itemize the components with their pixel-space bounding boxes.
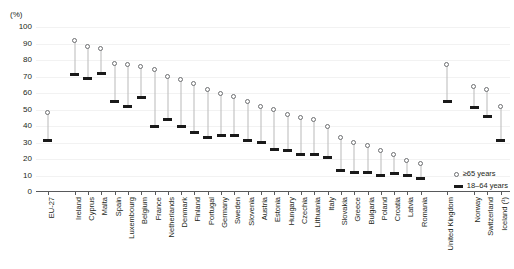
range-connector [500,106,501,141]
data-point-65-plus [365,143,370,148]
x-axis-tick [341,192,342,195]
y-axis-tick-label: 20 [23,155,32,163]
x-axis-category-label: Sweden [234,197,242,224]
data-point-65-plus [471,84,476,89]
data-point-65-plus [444,62,449,67]
x-axis-tick [288,192,289,195]
range-connector [487,90,488,116]
data-point-65-plus [391,152,396,157]
x-axis-tick [301,192,302,195]
x-axis-tick [447,192,448,195]
range-connector [221,93,222,136]
x-axis-category-label: Poland [381,197,389,220]
x-axis-category-label: Bulgaria [368,197,376,225]
y-axis-tick-label: 100 [19,23,32,31]
data-point-18-64 [243,139,252,142]
data-point-18-64 [390,172,399,175]
data-point-18-64 [163,118,172,121]
data-point-65-plus [338,135,343,140]
x-axis-tick [101,192,102,195]
range-connector [394,154,395,174]
x-axis-category-label: Greece [354,197,362,222]
data-point-18-64 [403,174,412,177]
x-axis-baseline [36,191,510,192]
range-connector [327,126,328,157]
x-axis-category-label: Italy [328,197,336,211]
x-axis-tick [354,192,355,195]
range-connector [74,40,75,75]
range-connector [87,47,88,78]
range-connector [287,114,288,150]
x-axis-tick [501,192,502,195]
range-connector [354,143,355,173]
y-gridline [36,176,510,177]
y-axis-tick-label: 70 [23,73,32,81]
y-gridline [36,44,510,45]
x-axis-category-label: EU-27 [48,197,56,218]
data-point-18-64 [97,72,106,75]
range-connector [380,151,381,176]
y-gridline [36,93,510,94]
data-point-65-plus [285,112,290,117]
x-axis-tick [234,192,235,195]
x-axis-category-label: Austria [261,197,269,220]
range-connector [141,67,142,98]
x-axis-tick [474,192,475,195]
x-axis-category-label: United Kingdom [447,197,455,250]
range-connector [127,65,128,106]
x-axis-category-label: Hungary [288,197,296,225]
range-connector [181,80,182,126]
range-connector [194,83,195,133]
data-point-65-plus [45,110,50,115]
x-axis-category-label: Norway [474,197,482,222]
x-axis-category-label: Belgium [141,197,149,224]
y-axis-tick-label: 60 [23,89,32,97]
x-axis-category-label: Luxembourg [128,197,136,239]
data-point-18-64 [257,141,266,144]
data-point-65-plus [205,87,210,92]
y-axis-tick-label: 40 [23,122,32,130]
y-axis-tick-label: 0 [28,188,32,196]
data-point-18-64 [203,136,212,139]
y-axis-tick-label: 90 [23,40,32,48]
x-axis-category-label: Croatia [394,197,402,221]
data-point-65-plus [404,158,409,163]
range-connector [207,90,208,138]
data-point-18-64 [283,149,292,152]
data-point-18-64 [323,156,332,159]
data-point-18-64 [336,169,345,172]
range-connector [474,86,475,107]
range-connector [167,77,168,120]
x-axis-category-label: Netherlands [168,197,176,237]
range-connector [261,106,262,142]
data-point-65-plus [98,46,103,51]
data-point-18-64 [483,115,492,118]
range-connector [101,48,102,73]
data-point-18-64 [177,125,186,128]
data-point-65-plus [112,61,117,66]
x-axis-tick [115,192,116,195]
data-point-65-plus [298,115,303,120]
filled-bar-marker-icon [454,185,463,188]
x-axis-tick [381,192,382,195]
data-point-18-64 [110,100,119,103]
x-axis-tick [221,192,222,195]
data-point-65-plus [258,104,263,109]
chart-root: (%) 0102030405060708090100EU-27IrelandCy… [0,0,514,269]
y-gridline [36,27,510,28]
data-point-18-64 [150,125,159,128]
open-circle-marker-icon [454,172,459,177]
y-axis-unit-label: (%) [10,10,22,19]
x-axis-tick [328,192,329,195]
data-point-65-plus [165,74,170,79]
data-point-18-64 [296,153,305,156]
range-connector [447,65,448,101]
legend-label: 18–64 years [467,180,508,192]
x-axis-category-label: Malta [101,197,109,215]
x-axis-tick [48,192,49,195]
y-axis-tick-label: 30 [23,139,32,147]
range-connector [47,113,48,141]
y-axis-tick-label: 80 [23,56,32,64]
chart-legend: ≥65 years18–64 years [454,168,508,192]
x-axis-category-label: Switzerland [487,197,495,236]
